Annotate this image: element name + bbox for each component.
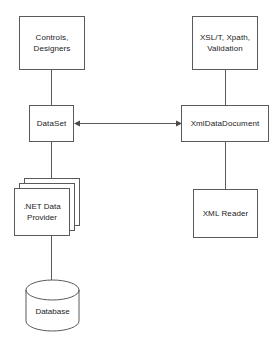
node-net-data-provider[interactable]: .NET Data Provider [14, 178, 80, 246]
connector-dataset-to-provider [51, 142, 52, 179]
node-controls-designers[interactable]: Controls, Designers [19, 16, 85, 70]
architecture-diagram: Controls, Designers XSL/T, Xpath, Valida… [0, 0, 278, 343]
connector-xmldatadocument-to-xmlreader [225, 142, 226, 190]
node-controls-designers-label: Controls, Designers [32, 32, 73, 54]
node-dataset-label: DataSet [35, 118, 69, 129]
node-xmldatadocument-label: XmlDataDocument [189, 118, 262, 129]
node-database-label: Database [25, 306, 80, 317]
node-xml-reader[interactable]: XML Reader [193, 189, 258, 238]
node-xslt-xpath-validation[interactable]: XSL/T, Xpath, Validation [192, 16, 258, 70]
node-xslt-xpath-validation-label: XSL/T, Xpath, Validation [198, 32, 252, 54]
connector-dataset-xmldatadocument-arrow [74, 117, 182, 130]
node-xml-reader-label: XML Reader [201, 208, 251, 219]
node-database[interactable]: Database [25, 279, 80, 332]
net-data-provider-stack-front-layer: .NET Data Provider [14, 188, 70, 236]
node-xmldatadocument[interactable]: XmlDataDocument [181, 105, 269, 142]
connector-controls-to-dataset [51, 70, 52, 106]
connector-xslt-to-xmldatadocument [225, 70, 226, 106]
node-net-data-provider-label: .NET Data Provider [21, 201, 62, 223]
node-dataset[interactable]: DataSet [29, 105, 74, 142]
